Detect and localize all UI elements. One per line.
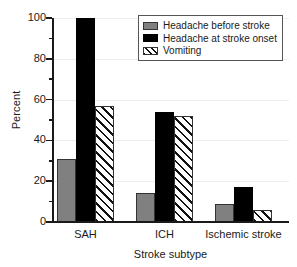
y-axis-minor-tick	[49, 78, 53, 80]
y-axis-tick	[46, 58, 52, 60]
legend-swatch-icon	[143, 22, 158, 30]
bar	[234, 187, 253, 222]
y-axis-tick-label: 40	[6, 134, 46, 145]
y-axis-tick-label: 0	[6, 216, 46, 227]
y-axis-line	[52, 18, 54, 222]
bar	[76, 18, 95, 222]
y-axis-minor-tick	[49, 160, 53, 162]
legend-swatch-icon	[143, 47, 158, 55]
bar-chart-figure: Percent 020406080100 SAHICHIschemic stro…	[0, 0, 297, 267]
x-axis-line	[52, 221, 289, 223]
legend-item-label: Vomiting	[163, 45, 201, 56]
bar-group	[57, 18, 114, 222]
y-axis-tick-label: 20	[6, 175, 46, 186]
bar	[57, 159, 76, 222]
legend-item: Headache before stroke	[143, 20, 277, 32]
y-axis-tick-label: 60	[6, 94, 46, 105]
bar	[95, 106, 114, 222]
y-axis-tick	[46, 99, 52, 101]
legend-item-label: Headache before stroke	[163, 20, 270, 31]
bar	[215, 204, 234, 222]
bar	[155, 112, 174, 222]
legend-item: Vomiting	[143, 45, 277, 57]
y-axis-tick-label: 100	[6, 12, 46, 23]
bar	[136, 193, 155, 222]
x-axis-tick-label: Ischemic stroke	[194, 228, 294, 240]
y-axis-tick	[46, 140, 52, 142]
chart-legend: Headache before strokeHeadache at stroke…	[138, 15, 283, 61]
y-axis-minor-tick	[49, 119, 53, 121]
legend-item-label: Headache at stroke onset	[163, 33, 277, 44]
x-axis-title: Stroke subtype	[52, 248, 289, 260]
y-axis-tick-label: 80	[6, 53, 46, 64]
y-axis-minor-tick	[49, 38, 53, 40]
y-axis-tick	[46, 221, 52, 223]
bar	[174, 116, 193, 222]
y-axis-minor-tick	[49, 201, 53, 203]
y-axis-tick	[46, 180, 52, 182]
legend-swatch-icon	[143, 34, 158, 42]
y-axis-tick	[46, 17, 52, 19]
legend-item: Headache at stroke onset	[143, 32, 277, 44]
